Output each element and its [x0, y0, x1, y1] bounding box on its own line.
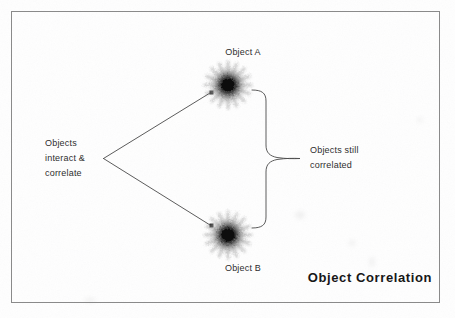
arrow-to-object-a	[104, 93, 211, 159]
arrowhead-object-a	[210, 91, 214, 95]
diagram-title: Object Correlation	[270, 270, 432, 285]
interact-and-correlate-label: Objects interact & correlate	[45, 136, 107, 181]
arrow-to-object-b	[104, 159, 211, 226]
object-a-label: Object A	[198, 45, 288, 60]
arrowhead-object-b	[210, 224, 214, 228]
diagram-canvas: Object A Object B Objects interact & cor…	[0, 0, 455, 318]
correlation-brace	[252, 90, 300, 228]
objects-still-correlated-label: Objects still correlated	[310, 143, 388, 173]
